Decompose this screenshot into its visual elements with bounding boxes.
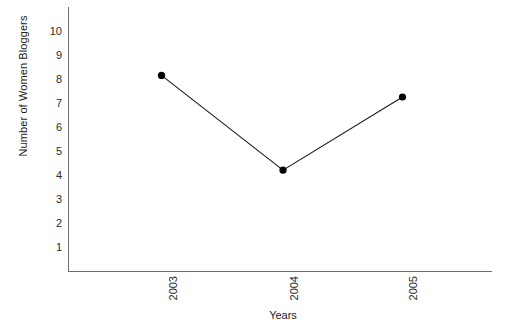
x-tick-label-2005: 2005 [407,276,419,322]
data-markers-series-0 [158,72,406,174]
data-point-2004 [279,167,286,174]
line-chart: Number of Women Bloggers 10 9 8 7 6 5 4 … [0,0,505,335]
data-point-2003 [158,72,165,79]
x-tick-label-2003: 2003 [167,276,179,322]
data-point-2005 [399,93,406,100]
x-axis-title: Years [233,308,333,322]
data-line-series-0 [162,75,403,170]
plot-area [0,0,505,335]
